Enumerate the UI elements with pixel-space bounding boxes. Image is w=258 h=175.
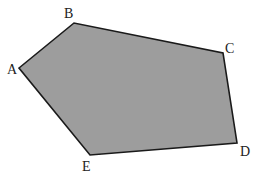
vertex-label-e: E <box>82 159 91 174</box>
pentagon-diagram: A B C D E <box>0 0 258 175</box>
vertex-label-b: B <box>64 6 73 21</box>
vertex-label-c: C <box>225 41 234 56</box>
vertex-label-a: A <box>7 62 18 77</box>
vertex-label-d: D <box>240 144 250 159</box>
pentagon-abcde <box>19 23 237 155</box>
